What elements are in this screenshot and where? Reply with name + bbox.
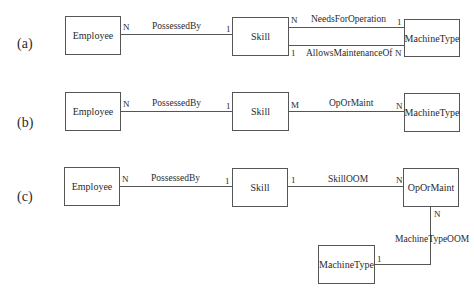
cardinality-allowsmaintenanceof-right: N xyxy=(395,49,402,58)
cardinality-skill-c: 1 xyxy=(225,177,230,186)
relationship-line-possessedby-a xyxy=(121,34,232,35)
entity-employee-a: Employee xyxy=(65,16,121,55)
cardinality-needsforoperation-left: N xyxy=(291,16,298,25)
cardinality-employee-a: N xyxy=(123,23,130,32)
cardinality-machinetypeoom-bottom: 1 xyxy=(377,255,382,264)
cardinality-skilloom-left: 1 xyxy=(291,176,296,185)
cardinality-skilloom-right: N xyxy=(396,176,403,185)
relationship-label-possessedby-a: PossessedBy xyxy=(152,22,201,32)
cardinality-machinetypeoom-top: N xyxy=(434,210,441,219)
entity-skill-b: Skill xyxy=(232,92,289,131)
relationship-line-machinetypeoom-horizontal xyxy=(375,264,431,265)
entity-employee-c: Employee xyxy=(64,167,120,206)
panel-label-a: (a) xyxy=(17,37,33,51)
cardinality-employee-b: N xyxy=(123,100,130,109)
relationship-line-skilloom xyxy=(288,186,403,187)
entity-machinetype-b: MachineType xyxy=(404,93,460,132)
relationship-label-machinetypeoom: MachineTypeOOM xyxy=(395,235,469,245)
relationship-line-opormaint-b xyxy=(289,111,404,112)
panel-label-c: (c) xyxy=(17,190,33,204)
cardinality-opormaint-right: N xyxy=(396,102,403,111)
cardinality-allowsmaintenanceof-left: 1 xyxy=(291,49,296,58)
relationship-label-possessedby-c: PossessedBy xyxy=(151,174,200,184)
relationship-line-needsforoperation xyxy=(289,27,404,28)
entity-skill-a: Skill xyxy=(232,17,289,56)
entity-machinetype-a: MachineType xyxy=(404,19,460,57)
relationship-label-needsforoperation: NeedsForOperation xyxy=(311,15,386,25)
relationship-label-possessedby-b: PossessedBy xyxy=(152,99,201,109)
cardinality-employee-c: N xyxy=(122,175,129,184)
entity-machinetype-c: MachineType xyxy=(318,245,375,284)
relationship-label-skilloom: SkillOOM xyxy=(328,175,368,185)
panel-label-b: (b) xyxy=(17,116,33,130)
entity-employee-b: Employee xyxy=(65,92,121,131)
entity-skill-c: Skill xyxy=(232,168,288,207)
cardinality-needsforoperation-right: 1 xyxy=(397,18,402,27)
relationship-line-possessedby-b xyxy=(121,111,232,112)
cardinality-skill-a: 1 xyxy=(226,25,231,34)
cardinality-skill-b: 1 xyxy=(226,102,231,111)
cardinality-opormaint-left: M xyxy=(291,101,299,110)
relationship-label-opormaint-b: OpOrMaint xyxy=(329,99,373,109)
entity-opormaint-c: OpOrMaint xyxy=(403,168,459,207)
relationship-line-allowsmaintenanceof xyxy=(289,45,404,46)
relationship-label-allowsmaintenanceof: AllowsMaintenanceOf xyxy=(306,49,393,59)
relationship-line-possessedby-c xyxy=(120,186,232,187)
